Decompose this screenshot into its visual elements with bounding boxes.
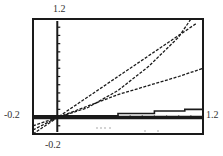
y-min-label: -0.2 [45,140,61,150]
x-min-label: -0.2 [4,110,20,120]
graph-canvas [0,0,223,156]
scan-dot [104,127,105,128]
scan-dot [157,130,158,131]
scan-dot [144,130,145,131]
scan-dot [96,127,97,128]
x-max-label: 1.2 [206,110,219,120]
series-step-function [33,109,203,116]
scan-dot [109,127,110,128]
scan-dot [100,127,101,128]
y-max-label: 1.2 [53,4,66,14]
